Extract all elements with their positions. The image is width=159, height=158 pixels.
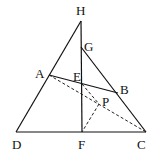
label-F: F <box>78 137 85 152</box>
label-G: G <box>84 39 93 54</box>
segment-AB <box>49 75 118 93</box>
label-B: B <box>120 82 129 97</box>
label-H: H <box>76 3 85 18</box>
segment-GC <box>81 47 146 132</box>
label-P: P <box>102 94 109 109</box>
segment-HD <box>16 21 81 132</box>
label-A: A <box>35 66 45 81</box>
geometry-diagram: H G A E B P D F C <box>0 0 159 158</box>
segment-AC <box>49 75 146 132</box>
label-D: D <box>12 137 21 152</box>
label-C: C <box>137 137 146 152</box>
segment-PF <box>82 104 99 132</box>
label-E: E <box>73 69 81 84</box>
dashed-lines <box>49 75 146 132</box>
segment-HF <box>81 21 82 132</box>
